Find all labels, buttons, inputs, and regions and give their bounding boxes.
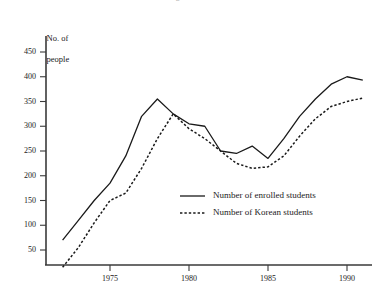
legend-label-2: Number of Korean students [213,207,313,217]
y-tick-label-300: 300 [10,121,36,130]
legend-label-1: Number of enrolled students [213,190,316,200]
chart-figure: g No. of people 501001502002503003504004… [0,0,379,293]
x-tick-label-1985: 1985 [248,274,288,283]
axes-group [40,36,372,271]
series-group [63,77,363,268]
x-tick-label-1980: 1980 [169,274,209,283]
y-tick-label-150: 150 [10,196,36,205]
x-tick-label-1990: 1990 [327,274,367,283]
y-tick-label-350: 350 [10,97,36,106]
y-tick-label-400: 400 [10,72,36,81]
y-tick-label-50: 50 [10,245,36,254]
x-tick-label-1975: 1975 [90,274,130,283]
y-tick-label-450: 450 [10,47,36,56]
legend-swatch-group [180,196,205,213]
y-tick-label-100: 100 [10,220,36,229]
series-line-2 [63,98,363,267]
y-tick-label-250: 250 [10,146,36,155]
chart-plot-area [0,0,379,293]
y-tick-label-200: 200 [10,171,36,180]
